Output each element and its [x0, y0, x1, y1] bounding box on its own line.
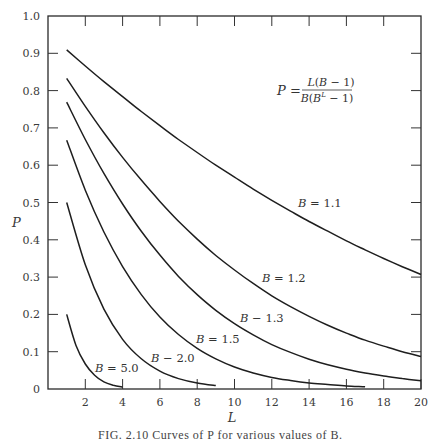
y-tick-label: 0.3 [23, 271, 41, 284]
x-axis-title: L [227, 410, 237, 425]
curve-1.5 [67, 140, 365, 387]
curve-1.1 [67, 50, 421, 275]
curves [67, 50, 421, 387]
axis-ticks: 246810121416182000.10.20.30.40.50.60.70.… [23, 10, 429, 409]
curve-label: B − 2.0 [150, 351, 195, 365]
x-tick-label: 6 [156, 396, 163, 409]
curve-label: B = 1.5 [195, 332, 240, 346]
y-tick-label: 0.5 [23, 197, 41, 210]
x-tick-label: 4 [119, 396, 126, 409]
formula-denominator: B(BL − 1) [300, 91, 354, 105]
x-tick-label: 10 [228, 396, 242, 409]
y-tick-label: 0.4 [23, 234, 41, 247]
x-tick-label: 8 [194, 396, 201, 409]
y-tick-label: 0.1 [23, 346, 41, 359]
formula: P = L(B − 1) B(BL − 1) [276, 76, 355, 105]
curve-1.3 [67, 102, 421, 381]
y-tick-label: 1.0 [23, 10, 41, 23]
y-tick-label: 0.6 [23, 159, 41, 172]
curve-label: B = 1.1 [297, 196, 342, 210]
curve-label: B = 5.0 [94, 361, 139, 375]
x-tick-label: 12 [265, 396, 279, 409]
figure-caption: FIG. 2.10 Curves of P for various values… [98, 428, 343, 443]
x-tick-label: 20 [414, 396, 428, 409]
y-tick-label: 0.8 [23, 85, 41, 98]
x-tick-label: 2 [82, 396, 89, 409]
y-tick-label: 0.2 [23, 308, 41, 321]
formula-lhs: P = [276, 83, 301, 98]
y-tick-label: 0 [33, 383, 40, 396]
y-axis-title: P [11, 215, 21, 230]
y-tick-label: 0.7 [23, 122, 41, 135]
curve-label: B = 1.2 [261, 271, 306, 285]
x-tick-label: 18 [377, 396, 391, 409]
formula-numerator: L(B − 1) [306, 76, 354, 89]
x-tick-label: 14 [302, 396, 316, 409]
curve-5.0 [67, 314, 123, 387]
x-tick-label: 16 [339, 396, 353, 409]
curve-label: B − 1.3 [239, 311, 284, 325]
y-tick-label: 0.9 [23, 47, 41, 60]
curve-labels: B = 1.1B = 1.2B − 1.3B = 1.5B − 2.0B = 5… [94, 196, 342, 375]
